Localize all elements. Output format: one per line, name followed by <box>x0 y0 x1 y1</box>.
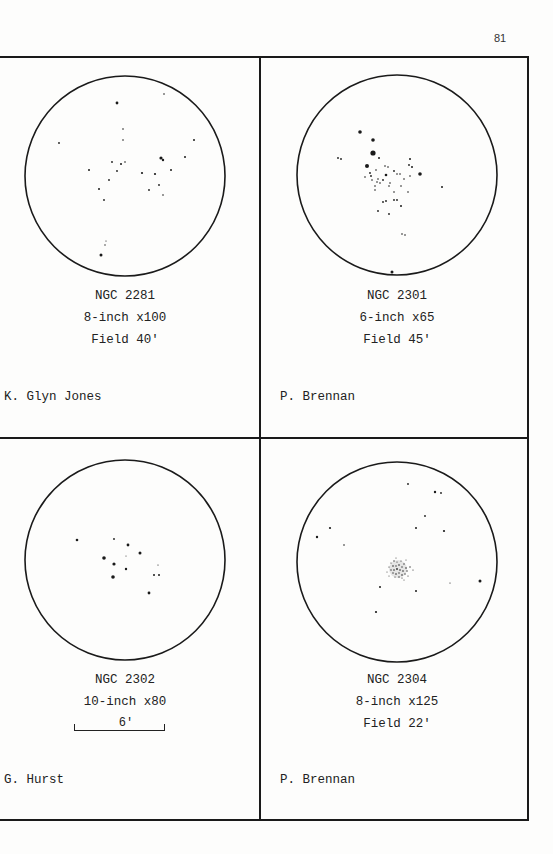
caption-ngc2304: NGC 2304 8-inch x125 Field 22' <box>297 669 497 735</box>
observer-name: P. Brennan <box>280 773 355 787</box>
object-name: NGC 2304 <box>297 669 497 691</box>
observer-name: G. Hurst <box>4 773 64 787</box>
field-info: Field 45' <box>297 329 497 351</box>
caption-ngc2281: NGC 2281 8-inch x100 Field 40' <box>25 285 225 351</box>
object-name: NGC 2302 <box>25 669 225 691</box>
instrument-info: 8-inch x100 <box>25 307 225 329</box>
cluster-core <box>387 558 414 581</box>
eyepiece-sketch-ngc2302 <box>0 438 260 698</box>
object-name: NGC 2301 <box>297 285 497 307</box>
eyepiece-sketch-ngc2304 <box>260 438 530 698</box>
scale-bar-label: 6' <box>106 716 146 730</box>
observer-name: K. Glyn Jones <box>4 390 102 404</box>
frame-bottom-border <box>0 819 529 821</box>
eyepiece-sketch-ngc2281 <box>0 0 260 440</box>
caption-ngc2302: NGC 2302 10-inch x80 <box>25 669 225 713</box>
field-info: Field 40' <box>25 329 225 351</box>
instrument-info: 10-inch x80 <box>25 691 225 713</box>
field-info: Field 22' <box>297 713 497 735</box>
object-name: NGC 2281 <box>25 285 225 307</box>
caption-ngc2301: NGC 2301 6-inch x65 Field 45' <box>297 285 497 351</box>
eyepiece-sketch-ngc2301 <box>260 0 530 440</box>
observer-name: P. Brennan <box>280 390 355 404</box>
instrument-info: 6-inch x65 <box>297 307 497 329</box>
instrument-info: 8-inch x125 <box>297 691 497 713</box>
